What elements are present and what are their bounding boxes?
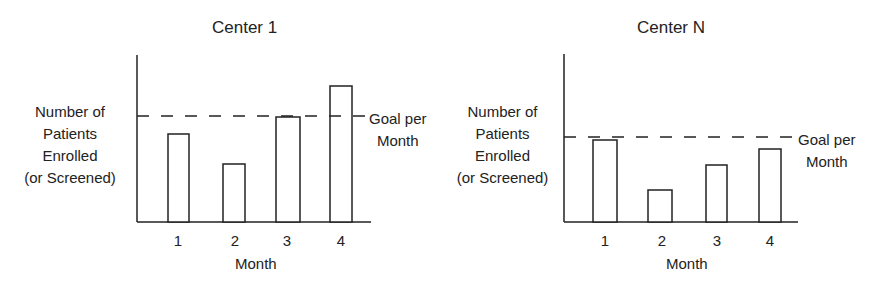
x-tick-2: 2 [225, 232, 245, 249]
x-tick-4: 4 [760, 232, 780, 249]
bar-month-3 [706, 165, 727, 222]
x-tick-1: 1 [595, 232, 615, 249]
x-tick-3: 3 [277, 232, 297, 249]
bar-month-3 [276, 117, 300, 222]
chart-center-1: Center 1 Number of Patients Enrolled (or… [0, 0, 445, 287]
bar-month-4 [330, 86, 352, 222]
x-tick-1: 1 [168, 232, 188, 249]
bar-month-2 [648, 190, 672, 222]
x-tick-4: 4 [331, 232, 351, 249]
bar-month-1 [593, 140, 617, 222]
bar-month-4 [759, 149, 781, 222]
x-tick-2: 2 [652, 232, 672, 249]
goal-label: Goal per Month [798, 129, 856, 173]
bar-month-1 [168, 134, 189, 222]
x-axis-label: Month [235, 255, 277, 272]
chart-center-n: Center N Number of Patients Enrolled (or… [445, 0, 889, 287]
x-axis-label: Month [666, 255, 708, 272]
goal-label: Goal per Month [369, 108, 427, 152]
x-tick-3: 3 [707, 232, 727, 249]
bar-month-2 [223, 164, 245, 222]
